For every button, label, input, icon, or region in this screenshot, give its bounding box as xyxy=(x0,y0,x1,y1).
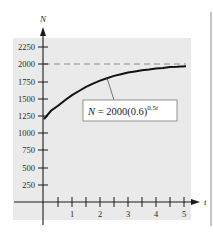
x-tick-label: 3 xyxy=(126,209,130,219)
x-tick-label: 1 xyxy=(70,209,74,219)
x-axis-arrow-icon xyxy=(191,199,200,205)
y-tick-label: 500 xyxy=(22,163,35,173)
y-tick-label: 1250 xyxy=(18,111,35,121)
y-tick-label: 2000 xyxy=(18,59,35,69)
gompertz-growth-chart: N t 250 500 750 1000 1250 1500 1750 2000… xyxy=(0,0,213,236)
x-tick-label: 2 xyxy=(98,209,102,219)
y-tick-label: 1500 xyxy=(18,94,35,104)
x-tick-label: 5 xyxy=(182,209,186,219)
y-tick-label: 750 xyxy=(22,145,35,155)
y-tick-label: 1000 xyxy=(18,128,35,138)
y-tick-label: 1750 xyxy=(18,77,35,87)
x-axis-label: t xyxy=(204,197,207,207)
y-tick-label: 250 xyxy=(22,180,35,190)
y-axis-arrow-icon xyxy=(40,27,46,36)
formula-main: = 2000(0.6) xyxy=(95,106,148,118)
y-axis-label: N xyxy=(39,14,47,24)
plot-background xyxy=(13,38,191,220)
y-tick-label: 2250 xyxy=(18,42,35,52)
